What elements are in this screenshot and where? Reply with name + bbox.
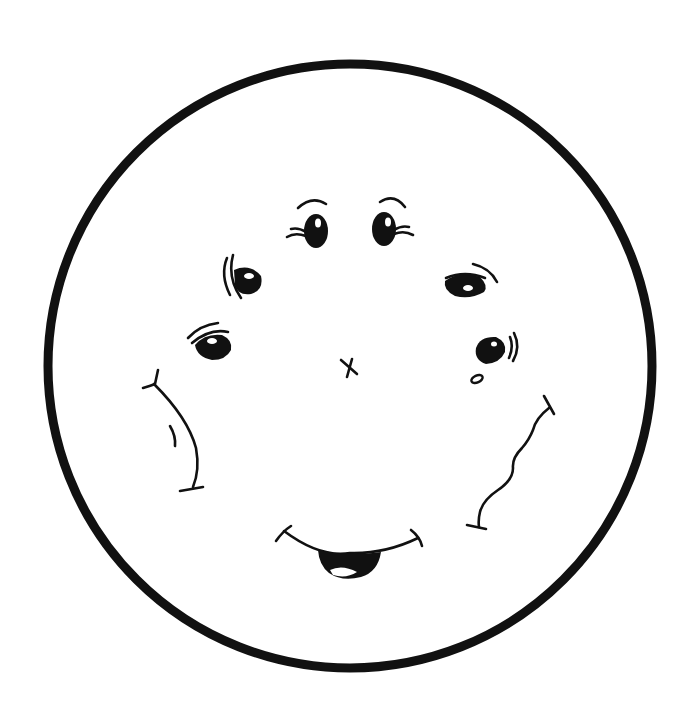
eye-upper-left <box>224 255 261 298</box>
eye-top-right <box>372 198 413 246</box>
nose-x <box>341 359 357 377</box>
mouth-smile <box>276 526 422 579</box>
smiley-face-illustration <box>0 0 700 718</box>
eye-lower-right <box>470 333 517 385</box>
left-cheek <box>143 370 203 491</box>
eye-top-left <box>287 200 328 248</box>
right-cheek-wavy <box>467 396 554 529</box>
tear-drop <box>470 373 484 384</box>
eye-upper-right <box>445 264 497 297</box>
eye-lower-left <box>188 323 231 360</box>
